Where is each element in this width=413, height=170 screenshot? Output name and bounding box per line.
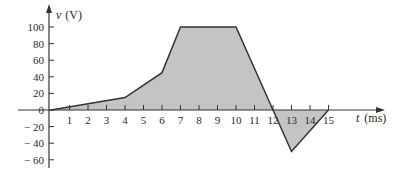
x-tick-label: 1 <box>67 114 73 126</box>
x-tick-label: 11 <box>249 114 260 126</box>
x-tick-label: 13 <box>286 114 298 126</box>
x-tick-label: 15 <box>323 114 335 126</box>
x-tick-label: 3 <box>104 114 110 126</box>
x-tick-label: 5 <box>141 114 147 126</box>
y-tick-label: 20 <box>33 87 45 99</box>
y-tick-label: − 40 <box>24 137 44 149</box>
x-tick-label: 9 <box>215 114 221 126</box>
x-tick-label: 8 <box>196 114 202 126</box>
y-axis-label: v(V) <box>56 8 82 22</box>
x-axis-label: t(ms) <box>356 111 386 125</box>
y-tick-label: 80 <box>33 38 45 50</box>
waveform-chart: 100806040200− 20− 40− 60 123456789101112… <box>0 0 413 170</box>
y-tick-label: 60 <box>33 54 45 66</box>
y-tick-label: 0 <box>39 104 45 116</box>
y-tick-label: − 20 <box>24 121 44 133</box>
x-tick-label: 12 <box>268 114 279 126</box>
x-tick-label: 4 <box>122 114 128 126</box>
x-tick-label: 2 <box>85 114 91 126</box>
x-tick-label: 6 <box>159 114 165 126</box>
y-tick-label: 100 <box>28 21 45 33</box>
y-tick-label: − 60 <box>24 154 44 166</box>
y-tick-label: 40 <box>33 71 45 83</box>
x-tick-label: 14 <box>305 114 317 126</box>
x-tick-label: 7 <box>178 114 184 126</box>
x-tick-label: 10 <box>231 114 243 126</box>
area-fill <box>51 27 329 152</box>
